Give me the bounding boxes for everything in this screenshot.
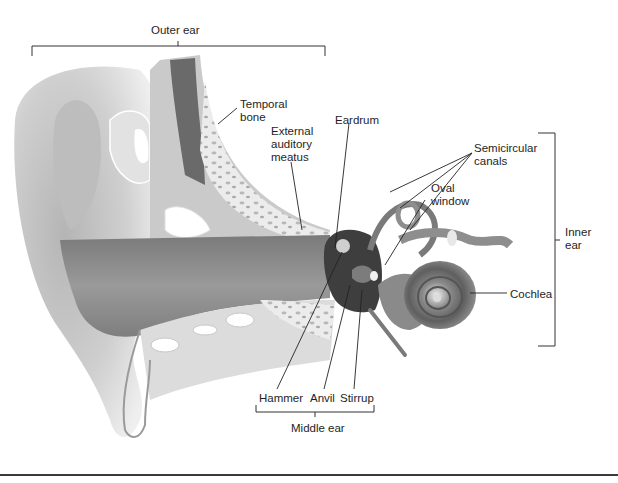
label-hammer: Hammer [259,392,303,405]
label-temporal-bone: Temporal bone [240,98,287,124]
label-external-auditory-meatus: External auditory meatus [271,125,313,164]
label-stirrup: Stirrup [340,392,374,405]
label-oval-window: Oval window [431,182,469,208]
middle-ear-bracket [256,405,374,412]
inner-ear-bracket [538,133,555,346]
label-semicircular-canals: Semicircular canals [474,142,537,168]
bottom-rule [0,474,618,476]
label-inner-ear: Inner ear [565,226,591,252]
outer-ear-bracket [32,46,325,56]
label-anvil: Anvil [310,392,335,405]
inner-ear [370,203,510,330]
label-middle-ear: Middle ear [291,422,345,435]
label-outer-ear: Outer ear [151,24,200,37]
label-eardrum: Eardrum [335,114,379,127]
ear-illustration [0,0,618,483]
label-cochlea: Cochlea [510,288,552,301]
